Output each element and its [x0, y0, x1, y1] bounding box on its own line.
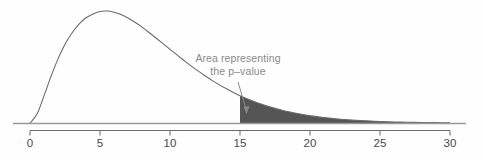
p-value-shaded-area: [240, 96, 450, 123]
chart-figure: Area representing the p–value 0510152025…: [0, 0, 483, 160]
annotation-label-line-1: Area representing: [178, 52, 298, 65]
x-tick-label-10: 10: [150, 137, 190, 149]
x-axis: [30, 131, 450, 136]
x-tick-label-15: 15: [220, 137, 260, 149]
distribution-plot-svg: [0, 0, 483, 160]
x-tick-label-30: 30: [430, 137, 470, 149]
x-tick-label-20: 20: [290, 137, 330, 149]
x-tick-label-25: 25: [360, 137, 400, 149]
x-tick-label-5: 5: [80, 137, 120, 149]
annotation-label-line-2: the p–value: [178, 65, 298, 78]
x-tick-label-0: 0: [10, 137, 50, 149]
